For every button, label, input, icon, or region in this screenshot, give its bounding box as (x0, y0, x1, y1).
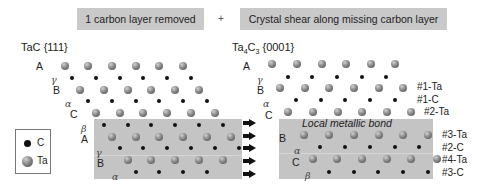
c-atom (426, 170, 430, 174)
c-atom (149, 123, 153, 127)
ta-atom (76, 86, 84, 94)
layer-tag-2-ta: #2-Ta (424, 107, 449, 117)
c-atom (118, 76, 122, 80)
c-atom (141, 146, 145, 150)
ta-atom (407, 108, 415, 116)
right-layer-label-B2: B (279, 133, 286, 144)
c-atom (368, 98, 372, 102)
left-layer-label-A: A (36, 61, 43, 72)
ta-atom (84, 62, 92, 70)
ta-atom (293, 60, 301, 68)
ta-atom (399, 84, 407, 92)
c-atom (343, 145, 347, 149)
ta-atom (227, 133, 235, 141)
c-atom (189, 146, 193, 150)
left-panel-title: TaC {111} (21, 41, 68, 53)
c-atom (360, 75, 364, 79)
ta-atom (187, 109, 195, 117)
c-atom (368, 145, 372, 149)
ta-atom (375, 84, 383, 92)
c-atom (384, 75, 388, 79)
ta-atom (301, 84, 309, 92)
left-title-compound: TaC (21, 41, 41, 53)
c-atom (181, 99, 185, 103)
left-layer-label-C: C (70, 109, 78, 120)
ta-atom (391, 60, 399, 68)
ta-atom (195, 156, 203, 164)
c-atom (310, 75, 314, 79)
ta-atom (383, 155, 391, 163)
c-atom (393, 98, 397, 102)
ta-atom (147, 86, 155, 94)
layer-tag-1-c: #1-C (417, 95, 439, 105)
c-atom (165, 76, 169, 80)
c-atom (213, 146, 217, 150)
c-atom (165, 146, 169, 150)
c-atom (221, 123, 225, 127)
c-atom (86, 99, 90, 103)
right-panel-title: Ta4C3 {0001} (232, 41, 294, 55)
ta-atom (318, 60, 326, 68)
layer-tag-4-ta: #4-Ta (442, 155, 467, 165)
ta-atom (132, 133, 140, 141)
ta-atom (108, 62, 116, 70)
layer-tag-3-c: #3-C (442, 168, 464, 178)
right-layer-label-A: A (243, 61, 250, 72)
ta-atom (300, 131, 308, 139)
plus-sign: + (218, 13, 224, 24)
ta-atom (424, 131, 432, 139)
ta-atom (276, 84, 284, 92)
c-atom (376, 170, 380, 174)
c-atom (94, 76, 98, 80)
legend: C Ta (15, 129, 51, 174)
ta-atom (375, 131, 383, 139)
left-title-plane: {111} (44, 41, 68, 53)
ta-atom (358, 108, 366, 116)
legend-carbon-label: C (37, 138, 44, 148)
ta-atom (61, 62, 69, 70)
c-atom (134, 170, 138, 174)
ta-atom (163, 109, 171, 117)
ta-atom (179, 62, 187, 70)
ta-atom (309, 108, 317, 116)
left-layer-label-A2: A (81, 134, 88, 145)
left-layer-label-alpha2: α (112, 172, 118, 182)
ta-atom (350, 131, 358, 139)
c-atom (70, 76, 74, 80)
ta-atom (179, 133, 187, 141)
ta-atom (171, 156, 179, 164)
c-atom (205, 170, 209, 174)
ta-atom (367, 60, 375, 68)
c-atom (189, 76, 193, 80)
ta-atom (325, 84, 333, 92)
ta-atom (147, 156, 155, 164)
c-atom (118, 146, 122, 150)
ta-atom (350, 84, 358, 92)
ta-atom (100, 86, 108, 94)
ta-atom (399, 131, 407, 139)
legend-tantalum-label: Ta (37, 156, 48, 166)
ta-atom (284, 108, 292, 116)
c-atom (318, 145, 322, 149)
ta-atom (116, 109, 124, 117)
left-layer-label-B2: B (97, 158, 104, 169)
ta-atom (407, 155, 415, 163)
c-atom (294, 98, 298, 102)
right-layer-label-B: B (257, 85, 264, 96)
ta-atom (309, 155, 317, 163)
right-title-plane: {0001} (262, 41, 294, 53)
c-atom (110, 99, 114, 103)
right-divider (279, 153, 433, 154)
c-atom (141, 76, 145, 80)
c-atom (237, 146, 241, 150)
ta-atom (92, 109, 100, 117)
c-atom (352, 170, 356, 174)
c-atom (401, 170, 405, 174)
right-layer-label-beta: β (305, 171, 311, 181)
ta-atom (268, 60, 276, 68)
c-atom (327, 170, 331, 174)
right-layer-label-alpha: α (263, 99, 269, 109)
local-metallic-bond-note: Local metallic bond (302, 117, 392, 129)
ta-atom (171, 86, 179, 94)
step1-banner: 1 carbon layer removed (77, 8, 204, 30)
